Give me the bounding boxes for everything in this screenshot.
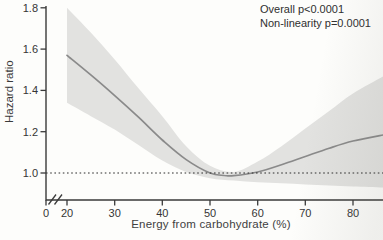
confidence-band [67,8,383,188]
x-tick-label: 80 [338,207,368,219]
x-axis-title: Energy from carbohydrate (%) [81,218,341,230]
y-tick-label: 1.6 [10,43,38,55]
chart-figure: 1.01.21.41.61.8020304050607080 Hazard ra… [0,0,383,240]
y-tick-label: 1.8 [10,2,38,14]
y-tick-label: 1.0 [10,167,38,179]
x-tick-label: 20 [52,207,82,219]
y-axis-title: Hazard ratio [3,60,15,123]
y-tick-label: 1.2 [10,126,38,138]
overall-p-value: Overall p<0.0001 [260,3,371,17]
p-value-annotations: Overall p<0.0001 Non-linearity p=0.0001 [260,3,371,30]
non-linearity-p-value: Non-linearity p=0.0001 [260,17,371,31]
spline-plot-canvas [0,0,383,240]
